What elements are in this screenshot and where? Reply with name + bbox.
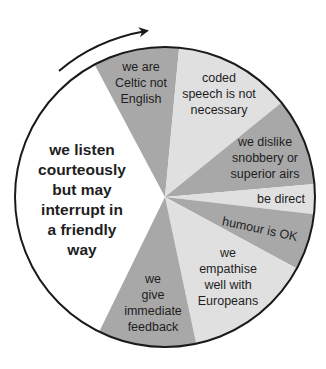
svg-text:speech is not: speech is not: [182, 87, 256, 101]
svg-text:we: we: [219, 246, 236, 260]
svg-text:but may: but may: [52, 181, 112, 198]
svg-text:empathise: empathise: [199, 262, 257, 276]
svg-text:we dislike: we dislike: [237, 135, 292, 149]
svg-text:we: we: [144, 272, 161, 286]
svg-text:interrupt in: interrupt in: [41, 201, 123, 218]
svg-text:superior airs: superior airs: [231, 167, 300, 181]
svg-text:courteously: courteously: [38, 161, 126, 178]
communication-wheel-diagram: we listen courteously but may interrupt …: [0, 0, 326, 369]
svg-text:immediate: immediate: [124, 304, 182, 318]
svg-text:give: give: [142, 288, 165, 302]
svg-text:Europeans: Europeans: [198, 294, 258, 308]
svg-text:feedback: feedback: [128, 320, 179, 334]
svg-text:coded: coded: [202, 71, 236, 85]
svg-text:English: English: [121, 92, 162, 106]
svg-text:well with: well with: [203, 278, 251, 292]
svg-text:we are: we are: [121, 60, 160, 74]
svg-text:snobbery or: snobbery or: [232, 151, 298, 165]
svg-text:necessary: necessary: [191, 103, 249, 117]
segment-label-celtic: we are Celtic not English: [115, 60, 168, 106]
svg-text:we listen: we listen: [48, 141, 114, 158]
svg-text:way: way: [66, 241, 97, 258]
segment-label-snobbery: we dislike snobbery or superior airs: [231, 135, 300, 181]
svg-text:a friendly: a friendly: [48, 221, 117, 238]
svg-text:be direct: be direct: [257, 192, 305, 206]
svg-text:Celtic not: Celtic not: [115, 76, 168, 90]
segment-label-direct: be direct: [257, 192, 305, 206]
